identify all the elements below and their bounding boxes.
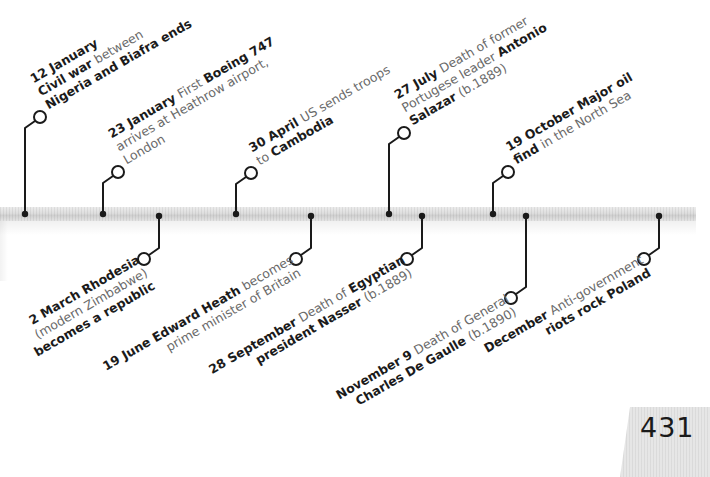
connector-jul27 [386, 127, 410, 217]
tick-dot-icon [386, 211, 392, 217]
connector-oct19 [490, 166, 514, 217]
connector-sep28 [401, 213, 425, 265]
tick-dot-icon [308, 213, 314, 219]
tick-dot-icon [656, 213, 662, 219]
page-number: 431 [640, 412, 695, 443]
connector-mar2 [138, 213, 162, 265]
connector-jun19 [290, 213, 314, 265]
connector-nov9 [505, 213, 529, 304]
tick-dot-icon [490, 211, 496, 217]
connector-jan12 [22, 111, 46, 217]
tick-dot-icon [419, 213, 425, 219]
tick-dot-icon [233, 211, 239, 217]
connector-jan23 [100, 166, 124, 217]
tick-dot-icon [22, 211, 28, 217]
tick-dot-icon [523, 213, 529, 219]
tick-dot-icon [100, 211, 106, 217]
connector-apr30 [233, 167, 257, 217]
tick-dot-icon [156, 213, 162, 219]
